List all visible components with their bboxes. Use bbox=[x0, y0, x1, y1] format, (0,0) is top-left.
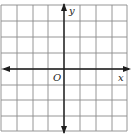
x-axis-label: x bbox=[118, 72, 124, 83]
y-axis-up-arrow-icon bbox=[61, 3, 67, 11]
y-axis-down-arrow-icon bbox=[61, 126, 67, 134]
y-axis-label: y bbox=[68, 5, 75, 16]
x-axis-left-arrow-icon bbox=[2, 66, 10, 72]
coordinate-plane: y x O bbox=[0, 0, 133, 137]
origin-label: O bbox=[53, 72, 61, 83]
